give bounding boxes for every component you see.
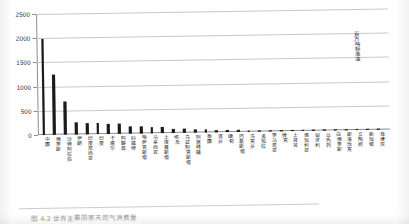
x-axis-label: 阿联酋	[115, 136, 124, 151]
x-axis-label: 新加坡	[363, 132, 372, 147]
y-axis-tick-label: 500	[21, 107, 32, 114]
figure-caption: 图 4-2 世界主要国家天然气消费量	[31, 211, 137, 223]
x-axis-label: 立陶宛	[352, 132, 361, 147]
bar-chart-figure: 05001000150020002500 中国俄罗斯沙特阿拉伯伊朗印度尼西亚印度…	[0, 0, 409, 224]
x-axis-label: 沙特阿拉伯	[61, 137, 70, 162]
y-axis-tick	[34, 135, 38, 136]
bar-series	[36, 9, 390, 136]
bar	[248, 130, 251, 131]
x-axis-label: 乌克兰	[245, 134, 254, 149]
x-axis-label: 菲律宾	[374, 132, 383, 147]
bar	[204, 130, 207, 133]
unit-annotation: 百万吨标准油	[350, 31, 360, 61]
y-axis-tick-label: 0	[28, 132, 32, 139]
x-axis-label: 缅甸	[223, 134, 232, 144]
x-axis-label: 土耳其	[288, 133, 297, 148]
x-axis-label: 卡塔尔	[104, 136, 113, 151]
bar	[118, 124, 121, 134]
x-axis-label: 波兰	[212, 134, 221, 144]
x-axis-category-labels: 中国俄罗斯沙特阿拉伯伊朗印度尼西亚印度卡塔尔阿联酋科威特哈萨克斯坦马来西亚土库曼…	[38, 132, 391, 210]
bar	[140, 127, 143, 134]
x-axis-label: 泰国	[201, 134, 210, 144]
bar	[269, 130, 272, 131]
bar	[172, 128, 175, 132]
x-axis-label: 土库曼斯坦	[158, 135, 167, 160]
x-axis-label: 俄罗斯	[50, 137, 59, 152]
bar	[291, 130, 294, 131]
y-axis-tick-label: 1000	[17, 83, 32, 90]
bar	[161, 127, 164, 133]
y-axis-tick-label: 1500	[16, 59, 31, 66]
x-axis-label: 科威特	[126, 136, 135, 151]
x-axis-label: 以色列	[320, 132, 329, 147]
x-axis-label: 阿塞拜疆	[191, 134, 200, 154]
bar	[215, 130, 218, 132]
x-axis-label: 保加利亚	[298, 133, 307, 153]
bar	[150, 127, 153, 133]
scanned-page: 05001000150020002500 中国俄罗斯沙特阿拉伯伊朗印度尼西亚印度…	[0, 0, 409, 224]
y-axis-tick-label: 2000	[16, 35, 31, 42]
bar	[75, 122, 78, 134]
x-axis-label: 白俄罗斯	[331, 132, 340, 152]
bar	[41, 39, 45, 135]
bar	[85, 123, 88, 134]
bar-slot	[371, 9, 384, 130]
bar	[129, 126, 132, 133]
bar	[312, 130, 315, 131]
bar	[302, 130, 305, 131]
bar	[334, 130, 337, 131]
plot-area: 05001000150020002500	[36, 9, 390, 136]
bar	[237, 130, 240, 132]
x-axis-label: 乌兹别克斯坦	[180, 135, 189, 165]
x-axis-label: 斯洛伐克	[342, 132, 351, 152]
bar	[226, 130, 229, 132]
x-axis-label: 印度尼西亚	[83, 136, 92, 161]
bar	[345, 129, 348, 130]
bar	[183, 129, 186, 133]
x-axis-label: 印度	[93, 136, 102, 146]
x-axis-label: 埃及	[169, 135, 178, 145]
x-axis-label: 罗马尼亚	[266, 133, 275, 153]
bar	[258, 130, 261, 131]
bar	[377, 129, 380, 130]
bar	[356, 129, 359, 130]
bar	[52, 74, 56, 135]
x-axis-label: 马来西亚	[147, 135, 156, 155]
x-axis-label: 匈牙利	[309, 133, 318, 148]
x-axis-label: 孟加拉	[255, 133, 264, 148]
bar	[96, 123, 99, 134]
x-axis-label: 伊朗	[72, 136, 81, 146]
x-axis-label: 哈萨克斯坦	[137, 135, 146, 160]
x-axis-label: 中国	[39, 137, 48, 147]
x-axis-label: 巴基斯坦	[234, 134, 243, 154]
bar	[107, 124, 110, 134]
bar	[366, 129, 369, 130]
x-axis-label: 捷克	[277, 133, 286, 143]
bar	[323, 130, 326, 131]
bar	[280, 130, 283, 131]
bar	[194, 130, 197, 133]
bar	[64, 102, 67, 135]
y-axis-tick-label: 2500	[15, 11, 30, 18]
